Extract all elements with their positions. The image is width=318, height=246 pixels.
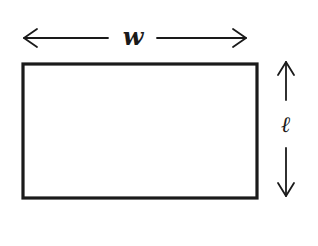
rectangle-dimension-diagram: w ℓ: [0, 0, 318, 246]
width-label: w: [123, 22, 145, 51]
length-label: ℓ: [281, 111, 290, 137]
rectangle: [23, 64, 257, 198]
